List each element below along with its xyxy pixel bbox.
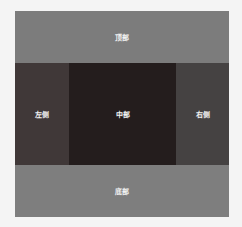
middle-row: 左侧 中部 右侧 (15, 63, 229, 165)
right-region: 右侧 (176, 63, 229, 165)
bottom-region: 底部 (15, 165, 229, 217)
left-region: 左侧 (15, 63, 69, 165)
center-label: 中部 (116, 109, 130, 119)
left-label: 左侧 (35, 109, 49, 119)
center-region: 中部 (69, 63, 176, 165)
top-label: 顶部 (115, 32, 129, 42)
bottom-label: 底部 (115, 186, 129, 196)
layout-diagram: 顶部 左侧 中部 右侧 底部 (15, 11, 229, 217)
right-label: 右侧 (196, 109, 210, 119)
top-region: 顶部 (15, 11, 229, 63)
